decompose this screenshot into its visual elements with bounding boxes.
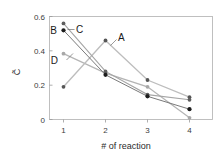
series-label-B: B (50, 25, 57, 36)
y-tick-label-0: 0 (41, 116, 46, 125)
series-label-D: D (51, 55, 58, 66)
x-tick-label-3: 3 (145, 126, 150, 135)
x-tick-label-2: 2 (103, 126, 108, 135)
y-tick-label-1: 0.2 (34, 81, 46, 90)
y-axis-title: C̃ (12, 68, 22, 75)
y-tick-label-3: 0.6 (34, 13, 46, 22)
chart-figure: 0 0.2 0.4 0.6 1 2 3 4 # of reaction C̃ (0, 0, 220, 158)
series-label-C: C (76, 24, 83, 35)
series-label-A: A (118, 32, 125, 43)
x-axis-title: # of reaction (101, 141, 151, 151)
x-tick-label-4: 4 (187, 126, 192, 135)
x-tick-label-1: 1 (61, 126, 66, 135)
chart-canvas: 0 0.2 0.4 0.6 1 2 3 4 # of reaction C̃ (0, 0, 220, 158)
y-tick-label-2: 0.4 (34, 47, 46, 56)
